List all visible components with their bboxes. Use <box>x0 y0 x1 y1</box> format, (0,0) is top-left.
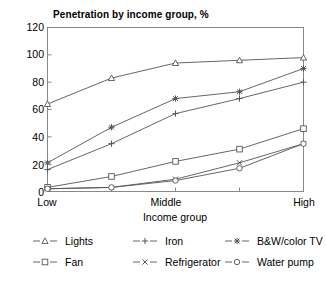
legend-label: Iron <box>165 235 183 247</box>
legend-item-refrigerator: Refrigerator <box>132 256 220 268</box>
legend-item-water-pump: Water pump <box>224 256 314 268</box>
chart-container: Penetration by income group, % 120 100 8… <box>0 0 326 281</box>
legend-marker-square-icon <box>32 256 58 268</box>
x-tick-label-middle: Middle <box>146 196 186 208</box>
legend-item-lights: Lights <box>32 235 93 247</box>
legend-label: Fan <box>65 256 83 268</box>
legend-label: B&W/color TV <box>257 235 323 247</box>
legend-marker-circle-icon <box>224 256 250 268</box>
legend-marker-star-icon <box>224 235 250 247</box>
legend-marker-triangle-icon <box>32 235 58 247</box>
chart-legend: Lights Iron B&W/color TV Fan Refrigerato… <box>28 232 320 274</box>
legend-item-iron: Iron <box>132 235 183 247</box>
x-tick-label-high: High <box>284 196 324 208</box>
legend-marker-x-icon <box>132 256 158 268</box>
legend-label: Water pump <box>257 256 314 268</box>
x-axis-title: Income group <box>115 211 235 223</box>
series-refrigerator <box>45 141 306 191</box>
legend-label: Lights <box>65 235 93 247</box>
legend-item-fan: Fan <box>32 256 83 268</box>
legend-label: Refrigerator <box>165 256 220 268</box>
legend-marker-plus-icon <box>132 235 158 247</box>
series-water-pump <box>45 141 306 191</box>
x-tick-label-low: Low <box>27 196 67 208</box>
legend-item-bw-color-tv: B&W/color TV <box>224 235 323 247</box>
